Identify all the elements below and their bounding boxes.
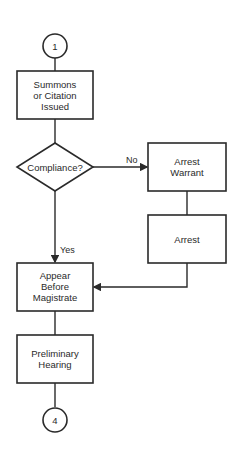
- end-connector: 4: [43, 408, 67, 432]
- summons-node: Summons or Citation Issued: [17, 71, 93, 119]
- summons-line-2: or Citation: [33, 90, 76, 101]
- hearing-line-2: Hearing: [38, 359, 71, 370]
- appear-line-2: Before: [41, 281, 69, 292]
- edge-label-yes: Yes: [60, 245, 75, 255]
- arrest-label: Arrest: [174, 234, 200, 245]
- flowchart: 1 Summons or Citation Issued Compliance?…: [0, 0, 240, 449]
- start-connector-label: 1: [52, 41, 57, 52]
- hearing-line-1: Preliminary: [31, 348, 79, 359]
- edge-label-no: No: [126, 155, 138, 165]
- warrant-line-2: Warrant: [170, 167, 204, 178]
- arrest-node: Arrest: [148, 215, 226, 263]
- warrant-line-1: Arrest: [174, 156, 200, 167]
- appear-line-3: Magistrate: [33, 292, 77, 303]
- warrant-node: Arrest Warrant: [148, 143, 226, 191]
- edge-arrest-to-appear: [94, 263, 187, 287]
- hearing-node: Preliminary Hearing: [17, 335, 93, 383]
- appear-line-1: Appear: [40, 270, 71, 281]
- compliance-label: Compliance?: [27, 162, 82, 173]
- appear-node: Appear Before Magistrate: [17, 263, 93, 311]
- summons-line-3: Issued: [41, 101, 69, 112]
- summons-line-1: Summons: [34, 79, 77, 90]
- start-connector: 1: [43, 34, 67, 58]
- compliance-decision: Compliance?: [17, 143, 93, 191]
- end-connector-label: 4: [52, 415, 57, 426]
